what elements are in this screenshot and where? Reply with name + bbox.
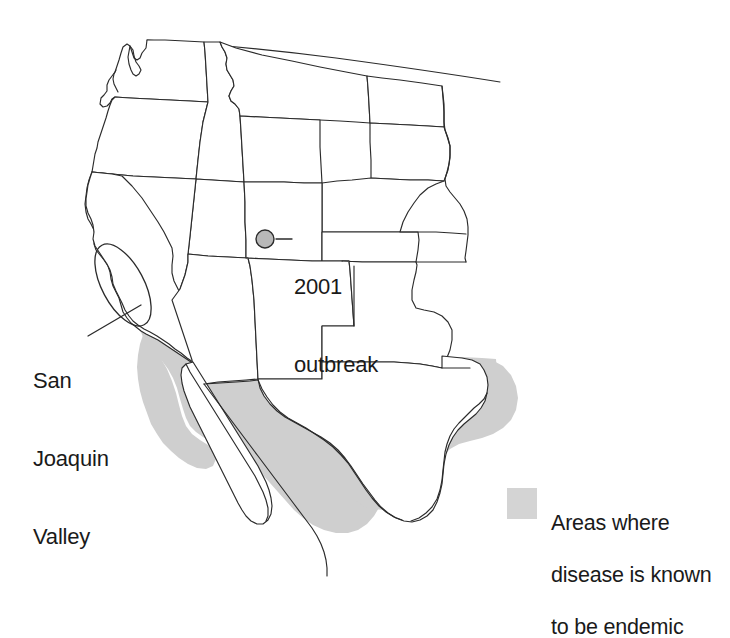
map-legend: Areas where disease is known to be endem… [507, 484, 712, 638]
state-wyoming [240, 116, 322, 183]
legend-label-line-1: Areas where [551, 510, 712, 536]
state-north-dakota [367, 76, 444, 127]
state-montana [220, 42, 370, 123]
legend-label: Areas where disease is known to be endem… [551, 484, 712, 638]
state-south-dakota [370, 123, 450, 181]
outbreak-label-line-2: outbreak [294, 352, 378, 378]
outbreak-label-line-1: 2001 [294, 274, 378, 300]
legend-label-line-2: disease is known [551, 562, 712, 588]
san-joaquin-label-line-3: Valley [33, 524, 109, 550]
san-joaquin-label-line-1: San [33, 368, 109, 394]
legend-label-line-3: to be endemic [551, 614, 712, 638]
state-utah [188, 179, 246, 258]
outbreak-marker-dot [256, 230, 274, 248]
san-joaquin-valley-label: San Joaquin Valley [33, 316, 109, 602]
border-missouri-river [442, 86, 468, 262]
san-joaquin-label-line-2: Joaquin [33, 446, 109, 472]
legend-swatch-endemic [507, 488, 537, 519]
outbreak-label: 2001 outbreak [294, 222, 378, 430]
state-oregon [92, 97, 208, 179]
